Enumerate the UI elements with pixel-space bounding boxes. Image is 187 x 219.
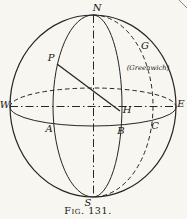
label-east: E: [176, 98, 185, 109]
label-west: W: [0, 99, 11, 110]
label-greenwich: (Greenwich): [127, 64, 170, 72]
figure-svg: NSWEPG(Greenwich)HABCFig. 131.: [0, 0, 187, 219]
label-point-p: P: [47, 52, 55, 63]
figure-caption: Fig. 131.: [64, 205, 112, 216]
label-point-b: B: [116, 125, 124, 136]
label-point-c: C: [151, 120, 159, 131]
figure-131-page: NSWEPG(Greenwich)HABCFig. 131.: [0, 0, 187, 219]
line-p-to-h: [57, 64, 120, 111]
label-point-g: G: [141, 40, 149, 51]
label-north-pole: N: [92, 2, 103, 13]
scan-artifact: [179, 0, 187, 8]
label-point-h: H: [122, 104, 132, 115]
label-point-a: A: [44, 123, 52, 134]
